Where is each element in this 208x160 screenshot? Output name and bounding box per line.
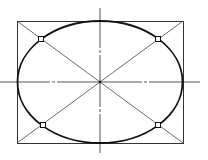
diagram-canvas — [0, 0, 208, 160]
intersection-marker-bottom-left — [41, 123, 46, 128]
centerlines — [0, 8, 200, 153]
intersection-marker-bottom-right — [156, 123, 161, 128]
ellipse-construction-drawing — [0, 0, 208, 160]
intersection-marker-top-left — [39, 37, 44, 42]
center-point — [99, 81, 101, 83]
intersection-marker-top-right — [156, 37, 161, 42]
